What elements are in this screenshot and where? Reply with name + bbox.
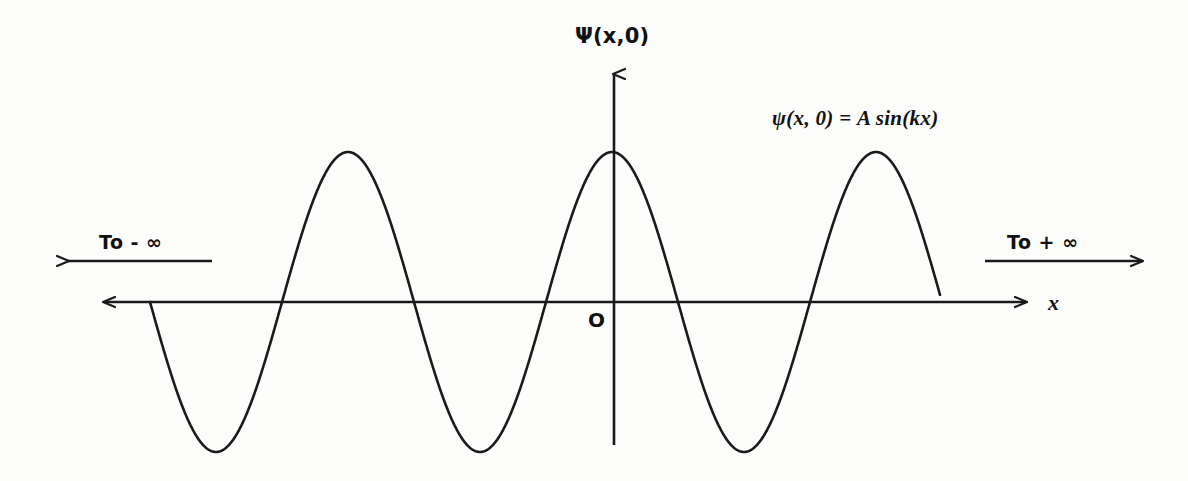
origin-label: O	[588, 310, 605, 330]
x-axis-label: x	[1048, 292, 1059, 314]
wave-equation-annotation: ψ(x, 0) = A sin(kx)	[772, 108, 938, 129]
to-negative-infinity-label: To - ∞	[99, 233, 162, 252]
wave-function-diagram: Ψ(x,0) x O ψ(x, 0) = A sin(kx) To - ∞ To…	[0, 0, 1188, 481]
y-axis-label: Ψ(x,0)	[575, 26, 649, 47]
to-positive-infinity-label: To + ∞	[1007, 233, 1078, 252]
